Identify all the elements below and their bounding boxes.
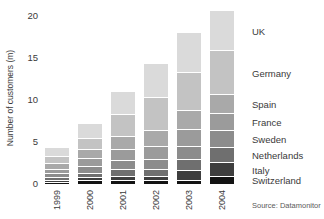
bar-segment-sweden <box>111 161 135 170</box>
bar-segment-spain <box>210 95 234 114</box>
bar-1999 <box>45 148 69 184</box>
bar-segment-germany <box>45 157 69 165</box>
y-tick-label: 0 <box>0 178 38 190</box>
bar-segment-spain <box>144 131 168 147</box>
bar-segment-spain <box>111 137 135 150</box>
bar-segment-sweden <box>210 131 234 148</box>
bar-segment-uk <box>177 33 201 73</box>
series-label-spain: Spain <box>252 99 276 110</box>
bar-segment-germany <box>144 98 168 132</box>
bar-segment-uk <box>144 64 168 98</box>
bar-segment-sweden <box>177 147 201 160</box>
bar-segment-france <box>144 147 168 160</box>
bar-segment-netherlands <box>111 170 135 177</box>
bar-segment-netherlands <box>144 170 168 177</box>
bar-segment-italy <box>210 163 234 177</box>
x-tick-label: 2001 <box>117 183 129 217</box>
bar-2001 <box>111 92 135 184</box>
series-label-sweden: Sweden <box>252 134 286 145</box>
stacked-bar-chart: Number of customers (m) 05101520 1999200… <box>0 0 324 219</box>
bar-segment-uk <box>45 148 69 157</box>
bar-2003 <box>177 33 201 184</box>
bar-segment-germany <box>78 139 102 150</box>
source-credit: Source: Datamonitor <box>252 201 321 210</box>
bar-segment-italy <box>177 171 201 181</box>
bar-segment-germany <box>177 73 201 111</box>
x-tick-label: 2000 <box>84 183 96 217</box>
bar-segment-france <box>111 150 135 161</box>
bar-segment-netherlands <box>210 148 234 163</box>
bar-segment-germany <box>210 51 234 95</box>
x-tick-label: 2002 <box>150 183 162 217</box>
bar-2002 <box>144 64 168 184</box>
x-tick-label: 1999 <box>51 183 63 217</box>
bar-segment-spain <box>78 150 102 160</box>
bar-segment-uk <box>78 124 102 139</box>
series-label-netherlands: Netherlands <box>252 150 303 161</box>
bar-segment-france <box>177 130 201 147</box>
bar-segment-france <box>210 114 234 131</box>
series-label-italy: Italy <box>252 165 269 176</box>
bar-segment-sweden <box>144 160 168 170</box>
series-label-switzerland: Switzerland <box>252 175 301 186</box>
bar-2000 <box>78 124 102 184</box>
bar-segment-uk <box>111 92 135 115</box>
x-tick-label: 2003 <box>183 183 195 217</box>
bar-segment-sweden <box>78 167 102 174</box>
bar-segment-spain <box>177 111 201 130</box>
bar-segment-france <box>78 159 102 167</box>
bar-2004 <box>210 11 234 184</box>
bar-segment-uk <box>210 11 234 51</box>
bar-segment-germany <box>111 115 135 137</box>
y-tick-label: 5 <box>0 136 38 148</box>
bar-segment-netherlands <box>177 160 201 171</box>
y-tick-label: 15 <box>0 52 38 64</box>
series-label-france: France <box>252 117 282 128</box>
x-tick-label: 2004 <box>216 183 228 217</box>
y-tick-label: 20 <box>0 10 38 22</box>
series-label-uk: UK <box>252 26 265 37</box>
y-tick-label: 10 <box>0 94 38 106</box>
series-label-germany: Germany <box>252 68 291 79</box>
